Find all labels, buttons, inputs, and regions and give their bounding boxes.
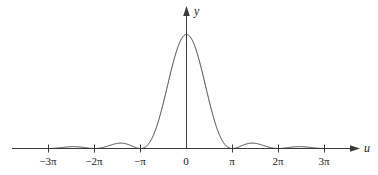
x-axis-label: u xyxy=(364,141,370,156)
tick-label-neg3pi: −3π xyxy=(39,155,56,167)
tick-label-2pi: 2π xyxy=(272,155,283,167)
x-axis-arrow-icon xyxy=(350,145,360,152)
tick-label-neg2pi: −2π xyxy=(85,155,102,167)
tick-label-zero: 0 xyxy=(183,155,189,167)
tick-label-pi: π xyxy=(229,155,235,167)
tick-label-3pi: 3π xyxy=(318,155,329,167)
y-axis-label: y xyxy=(194,4,199,19)
y-axis-arrow-icon xyxy=(183,6,190,16)
tick-label-negpi: −π xyxy=(134,155,146,167)
sinc-squared-plot-figure: −3π −2π −π 0 π 2π 3π y u xyxy=(0,0,378,175)
plot-canvas xyxy=(0,0,378,175)
